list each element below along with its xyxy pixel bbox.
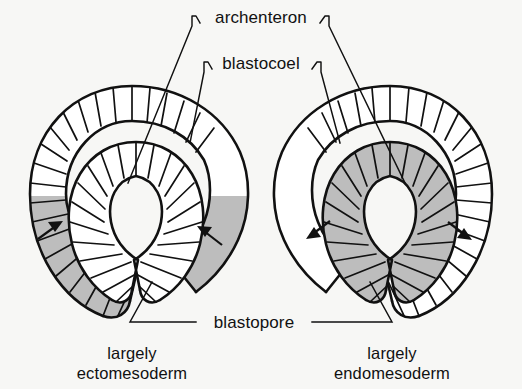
blastocoel-label: blastocoel xyxy=(222,54,300,73)
left-caption-line2: ectomesoderm xyxy=(77,364,187,382)
blastopore-label: blastopore xyxy=(214,313,294,332)
left-caption-line1: largely xyxy=(107,344,157,362)
gastrulation-figure: archenteron blastocoel blastopore largel… xyxy=(0,0,522,389)
diagram-canvas: archenteron blastocoel blastopore largel… xyxy=(0,0,522,389)
right-caption-line2: endomesoderm xyxy=(334,364,450,382)
right-caption-line1: largely xyxy=(367,344,417,362)
archenteron-label: archenteron xyxy=(215,8,307,27)
